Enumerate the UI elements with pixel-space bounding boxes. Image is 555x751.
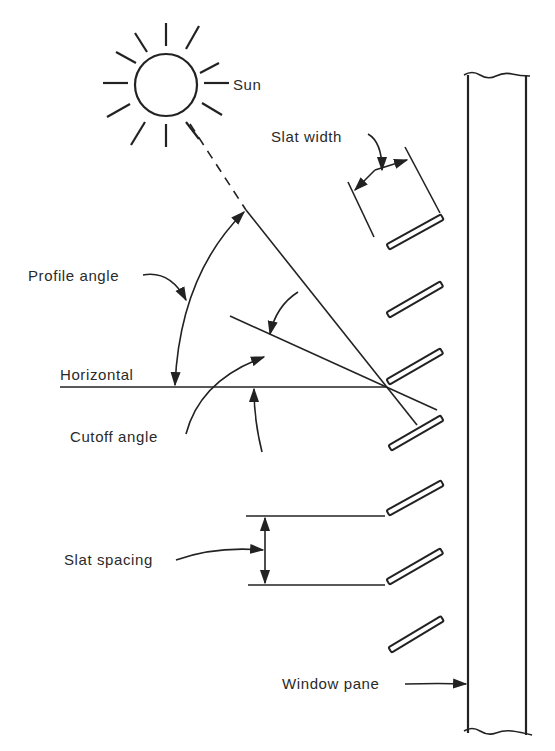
slat-1: [387, 214, 444, 249]
slats: [387, 214, 444, 652]
slat-4: [389, 415, 444, 450]
slat-6: [387, 548, 444, 584]
slat-spacing-label: Slat spacing: [64, 551, 153, 568]
profile-angle-label: Profile angle: [28, 267, 119, 284]
slat-width-leader: [368, 134, 382, 170]
slat-5: [387, 480, 444, 515]
window-pane-label: Window pane: [282, 675, 380, 692]
slat-3: [387, 348, 444, 384]
cutoff-angle-arrow-top: [270, 292, 298, 334]
sun-icon: [103, 23, 229, 147]
cutoff-angle-arrow-bottom: [254, 389, 262, 452]
slat-width-label: Slat width: [271, 128, 342, 145]
window-pane-leader: [405, 684, 466, 685]
profile-angle-leader: [143, 274, 186, 300]
cutoff-angle-leader: [186, 357, 264, 434]
cutoff-angle-label: Cutoff angle: [70, 428, 158, 445]
cutoff-line: [230, 316, 437, 410]
horizontal-label: Horizontal: [60, 366, 134, 383]
louver-diagram: Sun Profile angle Horizontal Cutoff angl…: [0, 0, 555, 751]
slat-7: [388, 616, 443, 653]
sun-label: Sun: [233, 76, 262, 93]
slat-spacing-leader: [176, 549, 263, 560]
window-pane: [464, 73, 532, 736]
slat-spacing-dimension: [246, 516, 385, 585]
slat-2: [387, 281, 444, 317]
